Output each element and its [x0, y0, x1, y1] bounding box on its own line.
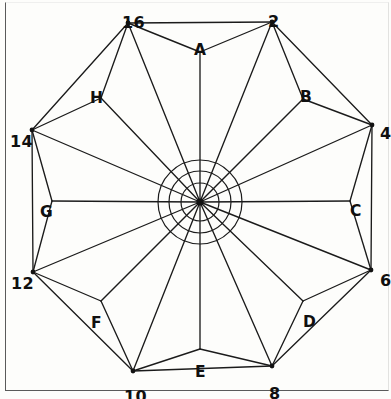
node-10 [131, 369, 136, 374]
outer-edge-14-16 [32, 23, 128, 130]
label-inner-C: C [350, 202, 362, 220]
outer-edge-12-14 [32, 130, 33, 272]
chord-10-F [101, 301, 133, 371]
octagon-radial-figure: 162468101214ABCDEFGH [0, 0, 391, 399]
spoke-center-C [200, 201, 350, 202]
chord-6-D [303, 270, 371, 301]
chord-H-16 [101, 23, 128, 98]
spoke-center-12 [33, 202, 200, 272]
label-outer-2: 2 [268, 12, 279, 31]
outer-edge-2-4 [272, 22, 372, 125]
node-6 [369, 268, 374, 273]
label-inner-E: E [195, 363, 206, 381]
spoke-center-B [200, 99, 303, 202]
chord-F-12 [33, 272, 101, 301]
label-inner-H: H [90, 89, 103, 107]
node-center [196, 198, 203, 205]
label-outer-6: 6 [380, 271, 391, 290]
label-inner-D: D [303, 313, 316, 331]
diagram-canvas: 162468101214ABCDEFGH [0, 0, 391, 399]
label-outer-4: 4 [380, 124, 391, 143]
chord-8-E [200, 349, 272, 366]
chord-D-8 [272, 301, 303, 366]
label-outer-12: 12 [11, 274, 34, 293]
label-outer-8: 8 [269, 384, 280, 399]
chord-B-4 [303, 99, 372, 125]
chord-G-14 [32, 130, 52, 201]
node-8 [270, 364, 275, 369]
chord-4-C [350, 125, 372, 201]
outer-edge-6-8 [272, 270, 371, 366]
chord-2-B [272, 22, 303, 99]
outer-edge-10-12 [33, 272, 133, 371]
outer-edge-16-2 [128, 22, 272, 23]
label-inner-F: F [91, 314, 102, 332]
chord-E-10 [133, 349, 200, 371]
label-outer-14: 14 [10, 132, 33, 151]
label-inner-A: A [194, 41, 206, 59]
label-inner-B: B [300, 88, 312, 106]
node-4 [370, 123, 375, 128]
label-outer-10: 10 [124, 387, 147, 399]
spoke-center-F [101, 202, 200, 301]
spoke-center-D [200, 202, 303, 301]
label-outer-16: 16 [122, 13, 145, 32]
spoke-center-H [101, 98, 200, 202]
spoke-center-G [52, 201, 200, 202]
label-inner-G: G [40, 203, 53, 221]
outer-edge-4-6 [371, 125, 372, 270]
